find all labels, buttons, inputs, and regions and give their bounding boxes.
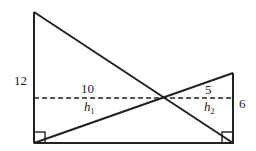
diagram-canvas: 12 6 10 5 h1 h2 <box>0 0 256 151</box>
h1-subscript: 1 <box>91 107 95 116</box>
label-right-segment: 5 <box>205 82 212 97</box>
h2-subscript: 2 <box>211 107 215 116</box>
label-left-height: 12 <box>14 73 27 88</box>
label-right-height: 6 <box>239 96 246 111</box>
label-h2: h2 <box>204 99 215 116</box>
label-left-segment: 10 <box>81 81 94 96</box>
label-h1: h1 <box>84 99 95 116</box>
diagonal-left-top-to-right-bottom <box>34 12 233 143</box>
